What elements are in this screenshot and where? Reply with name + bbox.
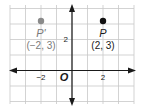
point-p-name: P: [99, 27, 107, 39]
x-axis-right-arrow: [128, 68, 136, 74]
y-axis-up-arrow: [69, 4, 75, 12]
y-axis-down-arrow: [69, 98, 75, 106]
point-p-prime-name: P': [36, 27, 46, 39]
origin-label: O: [60, 71, 69, 83]
y-tick-label-2: 2: [64, 35, 69, 44]
x-tick-label-2: 2: [101, 73, 106, 82]
point-p-prime: [38, 18, 44, 24]
point-p: [100, 18, 106, 24]
point-p-prime-coords: (−2, 3): [26, 40, 55, 51]
coordinate-plane: −2 2 2 O P' (−2, 3) P (2, 3): [0, 0, 146, 109]
point-p-coords: (2, 3): [91, 40, 114, 51]
x-tick-label-neg2: −2: [36, 73, 46, 82]
